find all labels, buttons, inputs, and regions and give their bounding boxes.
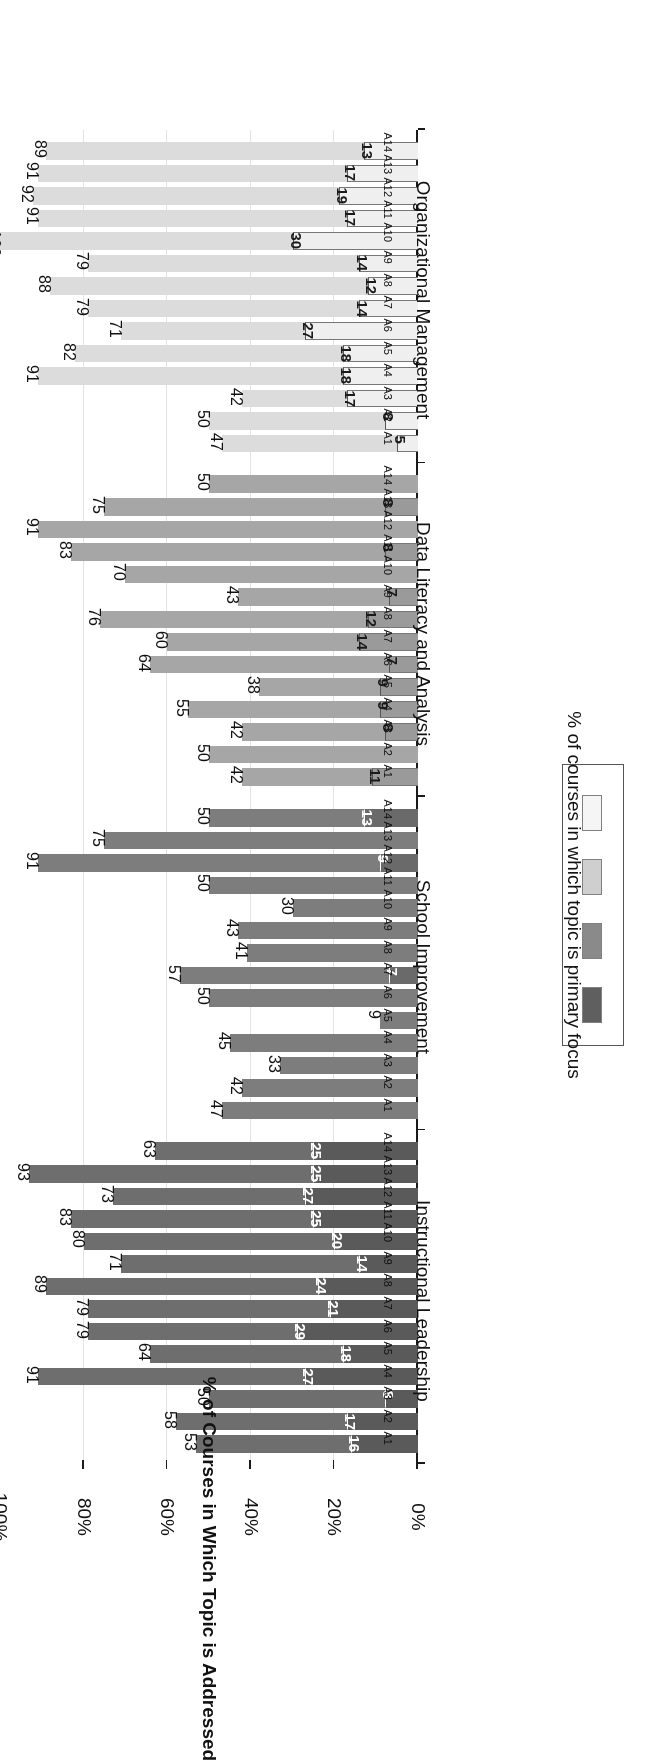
bar-row: 955	[0, 701, 418, 719]
bar-primary-focus-segment[interactable]	[293, 232, 418, 250]
bar-row: 2179	[0, 1300, 418, 1318]
bar-primary-focus-segment[interactable]	[297, 1323, 418, 1341]
bar-row: 50	[0, 746, 418, 764]
bar-row: 50	[0, 989, 418, 1007]
bar-total[interactable]	[105, 832, 419, 850]
bar-total[interactable]	[105, 498, 419, 516]
bar-value-label: 91	[23, 162, 41, 180]
bar-primary-focus-segment[interactable]	[305, 1188, 418, 1206]
bar-value-label: 83	[56, 541, 74, 559]
legend-swatch	[582, 795, 602, 831]
bar-row: 757	[0, 967, 418, 985]
group-separator-tick	[418, 462, 425, 464]
bar-value-label: 41	[232, 942, 250, 960]
bar-value-label: 79	[73, 252, 91, 270]
bar-row: 1288	[0, 277, 418, 295]
bar-total[interactable]	[71, 543, 418, 561]
bar-primary-focus-segment[interactable]	[330, 1300, 418, 1318]
bar-row: 42	[0, 1079, 418, 1097]
bar-row: 2771	[0, 322, 418, 340]
bar-inner-value-label: 16	[347, 1436, 364, 1453]
bar-row: 41	[0, 944, 418, 962]
group-title: School Improvement	[412, 822, 434, 1112]
bar-total[interactable]	[150, 656, 418, 674]
bar-row: 2080	[0, 1233, 418, 1251]
axis-tick	[166, 1460, 168, 1469]
bar-value-label: 47	[207, 433, 225, 451]
bar-inner-value-label: 17	[342, 1413, 359, 1430]
bar-inner-value-label: 17	[342, 210, 359, 227]
bar-value-label: 93	[14, 1163, 32, 1181]
bar-primary-focus-segment[interactable]	[314, 1142, 419, 1160]
bar-inner-value-label: 24	[313, 1278, 330, 1295]
bar-inner-value-label: 17	[342, 390, 359, 407]
bar-value-label: 50	[194, 744, 212, 762]
bar-row: 850	[0, 412, 418, 430]
bar-row: 30100	[0, 232, 418, 250]
bar-inner-value-label: 12	[363, 611, 380, 628]
bar-primary-focus-segment[interactable]	[305, 1368, 418, 1386]
bar-total[interactable]	[38, 854, 418, 872]
bar-inner-value-label: 30	[288, 232, 305, 249]
bar-inner-value-label: 18	[338, 368, 355, 385]
category-tick-label: A14	[382, 451, 394, 485]
bar-primary-focus-segment[interactable]	[314, 1165, 419, 1183]
bar-primary-focus-segment[interactable]	[334, 1233, 418, 1251]
axis-tick	[333, 1460, 335, 1469]
group-separator-tick	[418, 796, 425, 798]
bar-row: 1276	[0, 611, 418, 629]
bar-primary-focus-segment[interactable]	[305, 322, 418, 340]
bar-row: 33	[0, 1057, 418, 1075]
bar-value-label: 57	[165, 965, 183, 983]
bar-value-label: 53	[181, 1433, 199, 1451]
legend-swatch	[582, 859, 602, 895]
bar-value-label: 55	[173, 699, 191, 717]
bar-inner-value-label: 14	[355, 1255, 372, 1272]
bar-value-label: 42	[227, 766, 245, 784]
bar-value-label: 70	[110, 563, 128, 581]
bar-total[interactable]	[38, 521, 418, 539]
bar-total[interactable]	[280, 1057, 418, 1075]
bar-value-label: 43	[223, 586, 241, 604]
bar-primary-focus-segment[interactable]	[314, 1210, 419, 1228]
bar-row: 764	[0, 656, 418, 674]
bar-row: 1479	[0, 300, 418, 318]
bar-row: 75	[0, 832, 418, 850]
bar-value-label: 47	[207, 1100, 225, 1118]
category-tick-label: A14	[382, 785, 394, 819]
bar-row: 1742	[0, 390, 418, 408]
bar-row: 991	[0, 854, 418, 872]
bar-value-label: 42	[227, 721, 245, 739]
bar-primary-focus-segment[interactable]	[318, 1278, 418, 1296]
bar-value-label: 89	[31, 1275, 49, 1293]
bar-row: 43	[0, 922, 418, 940]
bar-inner-value-label: 25	[309, 1210, 326, 1227]
bar-value-label: 33	[265, 1055, 283, 1073]
bar-row: 1891	[0, 367, 418, 385]
bar-inner-value-label: 14	[355, 300, 372, 317]
bar-value-label: 91	[23, 852, 41, 870]
bar-value-label: 80	[69, 1230, 87, 1248]
bar-value-label: 43	[223, 919, 241, 937]
bar-total[interactable]	[125, 566, 418, 584]
group-separator-tick	[418, 129, 425, 131]
bar-inner-value-label: 29	[292, 1323, 309, 1340]
bar-value-label: 79	[73, 1321, 91, 1339]
bar-inner-value-label: 5	[393, 435, 410, 443]
bar-total[interactable]	[293, 899, 418, 917]
axis-tick-label: 0%	[407, 1487, 429, 1547]
bar-value-label: 64	[135, 654, 153, 672]
bar-row: 1471	[0, 1255, 418, 1273]
bar-value-label: 42	[227, 1077, 245, 1095]
bar-value-label: 50	[194, 807, 212, 825]
bar-value-label: 75	[90, 829, 108, 847]
group-title: Instructional Leadership	[412, 1156, 434, 1446]
bar-inner-value-label: 25	[309, 1165, 326, 1182]
bar-row: 9	[0, 1012, 418, 1030]
bar-value-label: 83	[56, 1208, 74, 1226]
bar-value-label: 50	[194, 987, 212, 1005]
legend-swatch	[582, 987, 602, 1023]
bar-row: 842	[0, 723, 418, 741]
bar-value-label: 45	[215, 1032, 233, 1050]
